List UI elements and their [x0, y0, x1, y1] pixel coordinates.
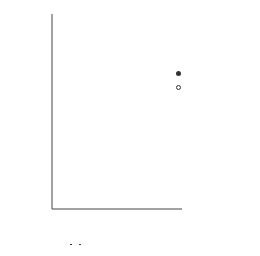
chart-canvas — [0, 0, 260, 256]
filled-circle-icon — [176, 71, 181, 76]
legend-thermocouple — [176, 71, 188, 76]
open-circle-icon — [176, 85, 181, 90]
x-axis-label — [70, 233, 81, 249]
legend-tracer-element — [176, 85, 188, 90]
